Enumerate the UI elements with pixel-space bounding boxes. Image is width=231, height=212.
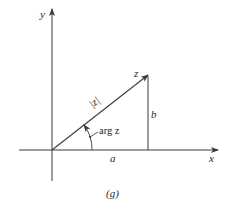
angle-leader-line [90,132,98,137]
diagram-canvas [0,0,231,212]
x-axis-label: x [209,153,214,164]
component-a-label: a [110,153,116,164]
y-axis-label: y [40,9,45,20]
figure-caption: (g) [106,188,119,199]
angle-label: arg z [99,126,120,137]
complex-plane-diagram: y x z |z| b a arg z (g) [0,0,231,212]
component-b-label: b [151,109,157,120]
vector-z [52,75,148,150]
vector-tip-label: z [134,68,138,79]
